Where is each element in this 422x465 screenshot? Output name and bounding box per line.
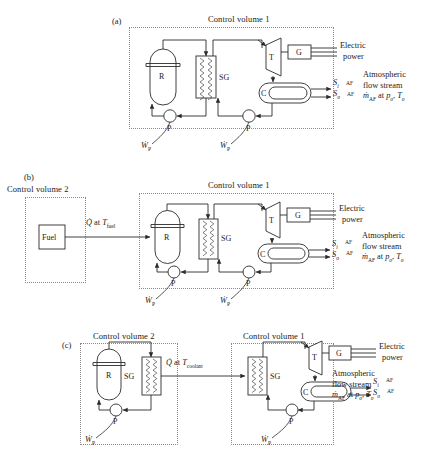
panel-a-schematic: R P SG T G [0,0,422,155]
panel-c-electric-label: Electric power [379,342,405,363]
condenser-shape-a: C [259,83,331,103]
panel-c-work-label-2: ẆP [261,435,271,447]
pump-b-2 [243,266,255,278]
generator-shape-b: G [280,208,336,222]
panel-b: (b) Control volume 2 Control volume 1 Fu… [0,155,422,305]
panel-a-electric-label: Electric power [340,41,366,62]
svg-text:G: G [296,48,302,57]
turbine-shape-c: T [309,341,322,375]
pump-c-2 [286,404,298,416]
panel-a: (a) Control volume 1 R P SG [0,0,422,155]
svg-text:R: R [106,371,112,380]
pump-c-1 [110,404,122,416]
svg-text:SG: SG [219,73,229,82]
generator-shape-a: G [281,45,337,59]
af-sub-b-in: AF [345,239,352,246]
svg-text:P: P [167,124,172,133]
af-sub-c-in: AF [386,377,393,384]
svg-text:P: P [113,417,118,426]
af-sub-a-in: AF [346,80,353,87]
pump-a-2 [243,110,255,122]
svg-text:T: T [312,353,317,362]
fuel-box-shape: Fuel [39,225,65,249]
panel-a-work-label-1: ẆP [141,141,151,153]
panel-b-heat-label: Q̇ at Tfuel [86,218,115,230]
panel-a-stream-in-label: Si [333,78,339,90]
turbine-shape-a: T [266,38,281,76]
svg-text:P: P [171,279,176,288]
turbine-shape-b: T [266,202,280,238]
svg-text:P: P [246,279,251,288]
af-sub-c-out: AF [387,388,394,395]
svg-text:C: C [260,250,265,259]
sg-left-shape-c: SG [124,357,161,395]
panel-a-stream-out-label: So [333,89,340,101]
panel-b-atmos-label: Atmospheric flow stream ṁAF at po, To [362,231,405,264]
svg-text:C: C [261,89,266,98]
svg-text:C: C [303,388,308,397]
svg-text:R: R [159,72,165,81]
panel-b-stream-in-label: Si [332,239,338,251]
panel-c-work-label-1: ẆP [85,435,95,447]
panel-a-work-label-2: ẆP [220,141,230,153]
svg-text:T: T [269,216,274,225]
reactor-shape-a: R [146,49,180,105]
af-sub-a-out: AF [347,91,354,98]
svg-text:SG: SG [124,372,134,381]
svg-text:G: G [295,211,301,220]
svg-text:P: P [289,417,294,426]
condenser-shape-b: C [258,244,330,263]
sg-right-shape-c: SG [248,357,280,395]
svg-text:SG: SG [221,234,231,243]
panel-c-heat-label: Q̇ at Tcoolant [166,358,203,370]
svg-text:T: T [269,53,274,62]
svg-text:G: G [336,349,342,358]
panel-b-schematic: Fuel R P SG T [0,155,422,305]
svg-text:R: R [164,233,170,242]
af-sub-b-out: AF [346,250,353,257]
svg-text:SG: SG [270,372,280,381]
reactor-shape-b: R [151,211,184,264]
sg-shape-b: SG [199,219,231,259]
reactor-shape-c: R [93,349,125,400]
panel-b-stream-out-label: So [332,250,339,262]
svg-text:Fuel: Fuel [42,233,57,242]
sg-shape-a: SG [196,56,229,100]
panel-b-electric-label: Electric power [339,204,365,225]
generator-shape-c: G [322,346,376,360]
svg-text:P: P [246,124,251,133]
pump-b-1 [168,266,180,278]
panel-a-atmos-label: Atmospheric flow stream ṁAF at po, To [363,70,406,103]
panel-c-atmospheric-label: Atmospheric flow stream ṁAF at po, To [332,369,375,402]
pump-a-1 [164,110,176,122]
